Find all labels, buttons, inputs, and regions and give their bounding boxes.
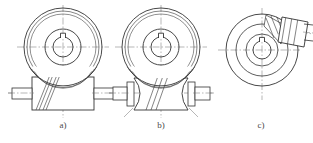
figure-label-b: b) xyxy=(150,120,172,130)
worm-shaft-right xyxy=(94,88,114,99)
wheel-keyway xyxy=(61,33,66,38)
figure-label-a: a) xyxy=(52,120,74,130)
wheel-keyway xyxy=(260,37,265,42)
worm-shaft-left xyxy=(113,87,127,100)
worm-collar-right xyxy=(188,82,195,106)
worm-shaft-left xyxy=(12,88,32,99)
worm-collar-left xyxy=(127,82,134,106)
figure-label-c: c) xyxy=(250,120,272,130)
technical-drawing-page: a) b) c) xyxy=(0,0,313,143)
wheel-keyway xyxy=(159,33,164,38)
worm-shaft-right xyxy=(195,87,210,100)
